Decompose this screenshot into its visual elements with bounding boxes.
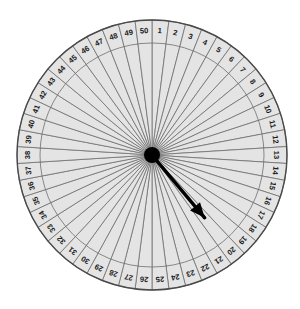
sector-label: 50 (140, 26, 149, 36)
sector-label: 49 (124, 27, 134, 37)
sector-label: 37 (23, 166, 33, 176)
wheel-canvas: 1234567891011121314151617181920212223242… (0, 0, 300, 309)
sector-label: 27 (124, 272, 134, 282)
sector-label: 12 (271, 135, 281, 145)
sector-label: 26 (140, 275, 149, 285)
sector-label: 39 (23, 135, 33, 145)
sector-label: 38 (23, 151, 32, 159)
spinner-wheel-figure: 1234567891011121314151617181920212223242… (0, 0, 300, 309)
sector-label: 25 (155, 275, 165, 285)
wheel-hub (144, 147, 160, 163)
sector-label: 13 (272, 151, 281, 159)
